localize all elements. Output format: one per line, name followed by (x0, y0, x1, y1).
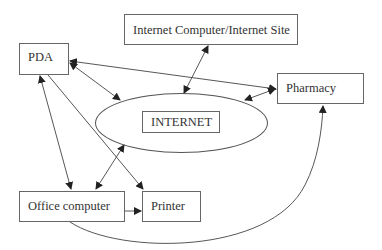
node-internet-site-label: Internet Computer/Internet Site (133, 24, 290, 37)
node-internet-site[interactable]: Internet Computer/Internet Site (124, 14, 298, 45)
node-internet-label: INTERNET (151, 116, 212, 129)
node-printer-label: Printer (151, 200, 185, 213)
node-pda[interactable]: PDA (19, 43, 69, 75)
node-pharmacy[interactable]: Pharmacy (277, 73, 364, 104)
node-office-computer[interactable]: Office computer (19, 191, 125, 222)
node-pharmacy-label: Pharmacy (286, 82, 336, 95)
edge-internet-pharmacy (245, 89, 275, 100)
edge-pda-pharmacy (70, 61, 276, 89)
edge-pda-internet (70, 63, 120, 100)
node-office-computer-label: Office computer (28, 200, 110, 213)
node-printer[interactable]: Printer (142, 191, 201, 222)
edge-site-internet (184, 46, 208, 93)
edge-office-internet (96, 145, 124, 189)
edge-pda-office (40, 76, 71, 189)
node-internet[interactable]: INTERNET (142, 111, 220, 133)
node-pda-label: PDA (28, 51, 53, 64)
